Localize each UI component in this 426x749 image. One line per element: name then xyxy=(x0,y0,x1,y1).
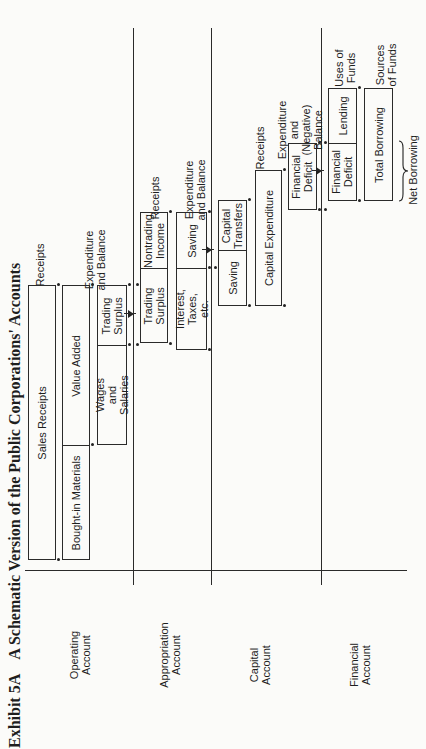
exhibit-title: Exhibit 5A A Schematic Version of the Pu… xyxy=(6,8,26,748)
appropriation-account-text: Appropriation Account xyxy=(158,615,182,695)
corner-dot xyxy=(169,342,172,345)
box-nontrading-income: Nontrading Income xyxy=(140,212,168,269)
financial-deficit-capital-text: Financial Deficit xyxy=(291,154,315,198)
corner-dot xyxy=(283,168,286,171)
corner-dot xyxy=(128,343,131,346)
arrow-saving-shaft xyxy=(202,249,214,250)
corner-dot xyxy=(208,266,211,269)
box-trading-surplus-operating: Trading Surplus xyxy=(97,285,127,346)
box-trading-surplus-appropriation: Trading Surplus xyxy=(140,268,168,343)
net-borrowing-label: Net Borrowing xyxy=(395,160,426,180)
corner-dot xyxy=(208,210,211,213)
financial-account-text: Financial Account xyxy=(348,635,372,695)
capital-expenditure-text: Capital Expenditure xyxy=(263,190,275,286)
saving-appropriation-text: Saving xyxy=(186,224,198,258)
corner-dot xyxy=(214,266,217,269)
operating-receipts-text: Receipts xyxy=(34,244,46,287)
box-sales-receipts: Sales Receipts xyxy=(28,285,56,560)
heading-financial-sources: Sources of Funds xyxy=(356,45,416,85)
corner-dot xyxy=(283,304,286,307)
box-saving-capital: Saving xyxy=(218,250,247,306)
box-capital-transfers: Capital Transfers xyxy=(218,200,247,251)
corner-dot xyxy=(358,86,361,89)
capital-account-text: Capital Account xyxy=(248,640,272,690)
divider-operating-appropriation xyxy=(133,28,134,585)
box-value-added: Value Added xyxy=(62,285,90,446)
box-wages-and-salaries: Wages and Salaries xyxy=(97,345,127,445)
financial-deficit-financial-text: Financial Deficit xyxy=(331,150,355,194)
corner-dot xyxy=(136,343,139,346)
operating-account-text: Operating Account xyxy=(68,620,92,690)
label-financial-account: Financial Account xyxy=(320,650,400,680)
corner-dot xyxy=(136,283,139,286)
interest-taxes-text: Interest, Taxes, etc. xyxy=(174,289,210,329)
arrow-trading-surplus-shaft xyxy=(124,313,136,314)
saving-capital-text: Saving xyxy=(227,261,239,295)
divider-appropriation-capital xyxy=(211,28,212,585)
sales-receipts-text: Sales Receipts xyxy=(36,386,48,459)
trading-surplus-operating-text: Trading Surplus xyxy=(100,297,124,334)
value-added-text: Value Added xyxy=(70,335,82,397)
arrow-financial-deficit-shaft xyxy=(312,170,324,171)
capital-transfers-text: Capital Transfers xyxy=(221,202,245,248)
corner-dot xyxy=(57,558,60,561)
box-saving-appropriation: Saving xyxy=(176,212,207,269)
box-financial-deficit-financial: Financial Deficit xyxy=(328,143,357,201)
financial-uses-text: Uses of Funds xyxy=(333,48,357,88)
bought-in-materials-text: Bought-in Materials xyxy=(70,455,82,550)
operating-expenditure-text: Expenditure and Balance xyxy=(83,228,107,292)
net-borrowing-text: Net Borrowing xyxy=(407,135,419,205)
corner-dot xyxy=(208,348,211,351)
box-bought-in-materials: Bought-in Materials xyxy=(62,445,90,560)
corner-dot xyxy=(91,443,94,446)
corner-dot xyxy=(324,141,327,144)
box-interest-taxes: Interest, Taxes, etc. xyxy=(176,268,207,350)
total-borrowing-text: Total Borrowing xyxy=(373,107,385,183)
box-financial-deficit-capital: Financial Deficit xyxy=(288,143,317,210)
financial-sources-text: Sources of Funds xyxy=(374,40,398,90)
box-total-borrowing: Total Borrowing xyxy=(364,88,393,201)
corner-dot xyxy=(248,304,251,307)
wages-and-salaries-text: Wages and Salaries xyxy=(94,375,130,415)
label-appropriation-account: Appropriation Account xyxy=(130,640,210,670)
corner-dot xyxy=(128,283,131,286)
label-capital-account: Capital Account xyxy=(230,650,290,680)
baseline-axis xyxy=(25,570,407,571)
exhibit-number: Exhibit 5A xyxy=(6,674,23,748)
trading-surplus-appropriation-text: Trading Surplus xyxy=(142,287,166,324)
exhibit-title-text: A Schematic Version of the Public Corpor… xyxy=(6,263,23,660)
corner-dot xyxy=(91,283,94,286)
box-lending: Lending xyxy=(328,88,357,144)
corner-dot xyxy=(169,210,172,213)
label-operating-account: Operating Account xyxy=(40,640,120,670)
corner-dot xyxy=(248,198,251,201)
corner-dot xyxy=(318,208,321,211)
box-capital-expenditure: Capital Expenditure xyxy=(255,170,282,306)
corner-dot xyxy=(318,141,321,144)
nontrading-income-text: Nontrading Income xyxy=(142,214,166,268)
lending-text: Lending xyxy=(337,96,349,135)
heading-operating-expenditure: Expenditure and Balance xyxy=(55,240,135,280)
corner-dot xyxy=(324,208,327,211)
corner-dot xyxy=(358,199,361,202)
corner-dot xyxy=(57,283,60,286)
